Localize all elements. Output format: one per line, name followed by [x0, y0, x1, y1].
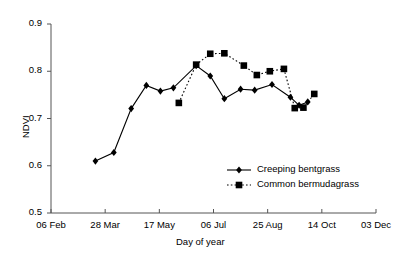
- plot-area: [0, 0, 404, 273]
- legend-marker-0: [236, 166, 242, 173]
- series-line-0: [95, 66, 307, 161]
- legend-marker-1: [236, 182, 243, 189]
- legend-glyph-group: [227, 166, 251, 188]
- series-markers-0: [93, 62, 311, 165]
- ndvi-line-chart: NDVI Day of year 0.50.60.70.80.9 06 Feb2…: [0, 0, 404, 273]
- data-series-group: [93, 50, 318, 165]
